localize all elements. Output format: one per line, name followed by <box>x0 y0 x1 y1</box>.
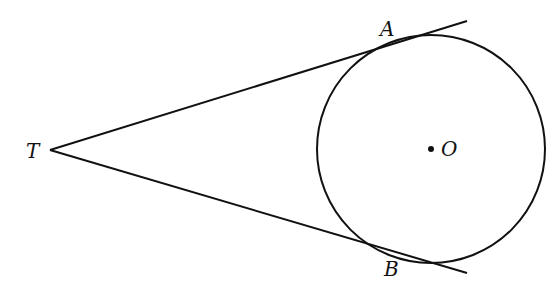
tangent-diagram: T A B O <box>0 0 560 296</box>
center-point-o <box>428 146 434 152</box>
label-b: B <box>383 257 399 281</box>
tangent-line-ta <box>50 21 467 150</box>
label-t: T <box>26 139 41 163</box>
label-o: O <box>441 137 457 161</box>
tangent-line-tb <box>50 150 467 273</box>
label-a: A <box>378 17 394 41</box>
diagram-canvas: T A B O <box>0 0 560 296</box>
